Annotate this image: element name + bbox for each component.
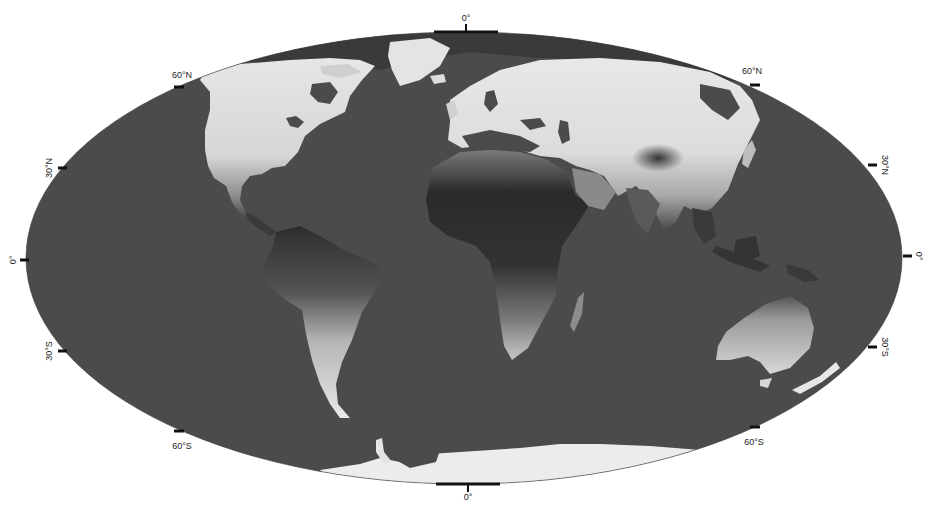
label-left-30s: 30°S — [44, 341, 54, 361]
label-right-60s: 60°S — [744, 437, 764, 447]
bottom-meridian-tick — [436, 484, 500, 492]
top-meridian-tick — [434, 24, 498, 32]
top-meridian-label: 0° — [462, 13, 471, 23]
label-right-equator: 0° — [914, 252, 924, 261]
map-canvas: 0° 0° 60°N 30°N 0° 30°S 60°S 60°N 30°N 0… — [0, 0, 926, 508]
world-map: 0° 0° 60°N 30°N 0° 30°S 60°S 60°N 30°N 0… — [0, 0, 926, 508]
label-right-30n: 30°N — [880, 155, 890, 175]
label-left-equator: 0° — [8, 255, 18, 264]
label-left-60n: 60°N — [172, 70, 192, 80]
label-right-60n: 60°N — [742, 66, 762, 76]
bottom-meridian-label: 0° — [464, 492, 473, 502]
tibetan-plateau — [632, 144, 684, 172]
label-left-60s: 60°S — [172, 441, 192, 451]
label-left-30n: 30°N — [44, 158, 54, 178]
label-right-30s: 30°S — [880, 337, 890, 357]
